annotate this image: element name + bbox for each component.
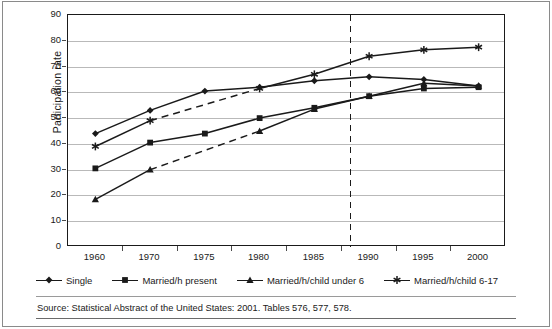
y-tick-label: 80 <box>35 35 61 45</box>
x-tick-mark <box>450 246 451 251</box>
legend-swatch-diamond-icon <box>36 274 62 286</box>
data-point-square-marker <box>257 115 263 121</box>
y-tick-label: 10 <box>35 215 61 225</box>
y-tick-label: 20 <box>35 189 61 199</box>
data-point-square-marker <box>202 131 208 137</box>
data-point-square-marker <box>147 140 153 146</box>
series-segment <box>424 87 479 88</box>
data-point-square-marker <box>123 277 129 283</box>
series-segment <box>369 77 424 80</box>
x-tick-mark <box>286 246 287 251</box>
series-segment <box>150 134 205 143</box>
y-tick-label: 60 <box>35 86 61 96</box>
data-point-diamond-marker <box>46 277 53 284</box>
x-tick-mark <box>122 246 123 251</box>
series-segment <box>314 96 369 109</box>
series-segment <box>314 56 369 74</box>
legend-label: Married/h/child under 6 <box>267 275 364 286</box>
plot-inner <box>68 15 504 245</box>
y-tick-mark <box>62 66 66 67</box>
y-tick-mark <box>62 194 66 195</box>
y-tick-label: 90 <box>35 9 61 19</box>
x-tick-label: 1985 <box>291 252 335 262</box>
legend-item-triangle: Married/h/child under 6 <box>237 274 364 286</box>
y-axis-ticks: 9080706050403020100 <box>33 14 61 246</box>
series-segment <box>95 170 150 200</box>
chart-page: Participation rate 9080706050403020100 1… <box>0 0 552 329</box>
x-tick-label: 1960 <box>72 252 116 262</box>
series-segment <box>95 110 150 133</box>
legend-item-diamond: Single <box>36 274 92 286</box>
y-tick-mark <box>62 169 66 170</box>
y-tick-label: 0 <box>35 241 61 251</box>
data-point-triangle-marker <box>246 276 253 282</box>
series-segment <box>205 118 260 133</box>
data-point-square-marker <box>421 86 427 92</box>
legend-swatch-triangle-icon <box>237 274 263 286</box>
chart-legend: SingleMarried/h presentMarried/h/child u… <box>36 271 516 289</box>
legend-swatch-asterisk-icon <box>384 274 410 286</box>
data-point-diamond-marker <box>92 130 99 137</box>
data-point-asterisk-marker <box>92 143 99 151</box>
source-divider-top <box>36 296 516 297</box>
legend-marker-triangle-icon <box>237 274 263 286</box>
x-tick-mark <box>231 246 232 251</box>
data-point-diamond-marker <box>366 73 373 80</box>
legend-item-asterisk: Married/h/child 6-17 <box>384 274 498 286</box>
legend-label: Married/h present <box>142 275 216 286</box>
series-segment <box>424 47 479 50</box>
series-segment <box>205 87 260 91</box>
data-point-square-marker <box>92 165 98 171</box>
source-divider-bottom <box>36 318 516 319</box>
series-segment <box>150 131 260 170</box>
y-tick-label: 50 <box>35 112 61 122</box>
y-tick-label: 30 <box>35 164 61 174</box>
y-tick-mark <box>62 40 66 41</box>
x-tick-mark <box>341 246 342 251</box>
x-tick-label: 1980 <box>237 252 281 262</box>
legend-label: Married/h/child 6-17 <box>414 275 498 286</box>
data-point-diamond-marker <box>311 77 318 84</box>
x-tick-label: 2000 <box>456 252 500 262</box>
x-tick-label: 1995 <box>401 252 445 262</box>
legend-item-square: Married/h present <box>112 274 216 286</box>
series-segment <box>369 50 424 56</box>
y-tick-label: 40 <box>35 138 61 148</box>
x-tick-mark <box>177 246 178 251</box>
x-tick-label: 1970 <box>127 252 171 262</box>
legend-label: Single <box>66 275 92 286</box>
series-segment <box>314 77 369 81</box>
plot-area <box>67 14 505 246</box>
data-point-diamond-marker <box>147 107 154 114</box>
legend-swatch-square-icon <box>112 274 138 286</box>
legend-marker-asterisk-icon <box>384 274 410 286</box>
series-3 <box>92 43 482 150</box>
y-tick-mark <box>62 220 66 221</box>
series-segment <box>95 121 150 147</box>
series-1 <box>92 84 481 171</box>
y-tick-mark <box>62 91 66 92</box>
data-point-diamond-marker <box>201 88 208 95</box>
y-tick-mark <box>62 143 66 144</box>
chart-series-layer <box>68 15 506 247</box>
x-tick-mark <box>396 246 397 251</box>
y-tick-label: 70 <box>35 61 61 71</box>
x-tick-label: 1990 <box>346 252 390 262</box>
legend-marker-square-icon <box>112 274 138 286</box>
x-axis-ticks: 19601970197519801985199019952000 <box>67 246 505 266</box>
x-tick-label: 1975 <box>182 252 226 262</box>
data-point-triangle-marker <box>92 196 99 202</box>
series-segment <box>95 143 150 169</box>
source-note: Source: Statistical Abstract of the Unit… <box>37 303 352 313</box>
data-point-asterisk-marker <box>394 276 401 284</box>
y-tick-mark <box>62 117 66 118</box>
legend-marker-diamond-icon <box>36 274 62 286</box>
